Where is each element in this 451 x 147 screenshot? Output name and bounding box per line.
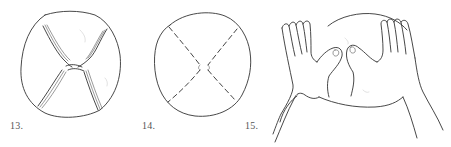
figure-13: 13. [0,0,140,147]
hands-shaping-dough-illustration [245,0,451,147]
figure-15: 15. [245,0,451,147]
figure-label-14: 14. [142,120,155,131]
figure-label-13: 13. [10,120,23,131]
